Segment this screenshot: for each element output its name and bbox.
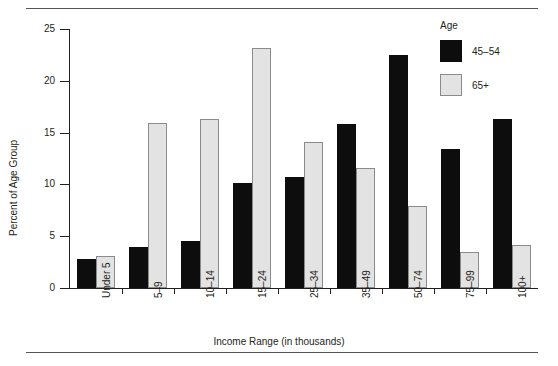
legend-label: 45–54 — [472, 46, 500, 57]
y-tick-label: 15 — [44, 126, 55, 139]
y-tick: 10 — [60, 184, 69, 185]
y-tick-label: 5 — [49, 229, 55, 242]
bar — [77, 259, 96, 288]
legend-label: 65+ — [472, 80, 489, 91]
bar-group — [174, 29, 226, 288]
bar-group — [278, 29, 330, 288]
x-tick-label: 15–24 — [257, 270, 268, 298]
top-rule — [26, 8, 538, 9]
y-tick: 15 — [60, 133, 69, 134]
x-tick-label: 75–99 — [465, 270, 476, 298]
x-tick-label: 35–49 — [361, 270, 372, 298]
x-tick-label: 50–74 — [413, 270, 424, 298]
bar — [441, 149, 460, 288]
x-tick-label: 100+ — [517, 275, 528, 298]
legend-item: 65+ — [440, 74, 540, 96]
bar — [493, 119, 512, 288]
legend-swatch — [440, 74, 462, 96]
bar-group — [330, 29, 382, 288]
legend-title: Age — [440, 20, 540, 32]
x-tick — [382, 289, 383, 294]
y-tick: 5 — [60, 236, 69, 237]
x-tick-label: 10–14 — [205, 270, 216, 298]
y-tick: 25 — [60, 29, 69, 30]
x-tick-label: 5–9 — [153, 281, 164, 298]
bar — [200, 119, 219, 288]
legend-rows: 45–5465+ — [440, 40, 540, 96]
y-tick-label: 0 — [49, 281, 55, 294]
bar-group — [382, 29, 434, 288]
bottom-rule — [26, 352, 538, 353]
y-tick-label: 25 — [44, 22, 55, 35]
bar — [252, 48, 271, 288]
x-tick — [434, 289, 435, 294]
bar — [129, 247, 148, 288]
y-axis-title: Percent of Age Group — [8, 0, 20, 86]
x-tick — [174, 289, 175, 294]
bar — [285, 177, 304, 288]
bar — [148, 123, 167, 288]
bar-group — [70, 29, 122, 288]
y-tick-label: 10 — [44, 177, 55, 190]
y-tick: 20 — [60, 81, 69, 82]
y-tick: 0 — [60, 288, 69, 289]
bar — [233, 183, 252, 288]
legend: Age 45–5465+ — [440, 20, 540, 108]
x-tick — [486, 289, 487, 294]
bar — [181, 241, 200, 288]
y-axis-title-text: Percent of Age Group — [8, 86, 20, 236]
x-tick — [330, 289, 331, 294]
x-tick — [226, 289, 227, 294]
legend-item: 45–54 — [440, 40, 540, 62]
x-tick — [122, 289, 123, 294]
x-tick-label: 25–34 — [309, 270, 320, 298]
x-axis-title: Income Range (in thousands) — [0, 336, 558, 347]
x-tick — [278, 289, 279, 294]
bar-group — [122, 29, 174, 288]
legend-swatch — [440, 40, 462, 62]
x-tick-label: Under 5 — [101, 262, 112, 298]
bar-group — [226, 29, 278, 288]
y-tick-label: 20 — [44, 74, 55, 87]
bar — [337, 124, 356, 288]
chart-figure: Percent of Age Group 0510152025 Under 55… — [0, 0, 558, 366]
bar — [304, 142, 323, 288]
bar — [389, 55, 408, 288]
